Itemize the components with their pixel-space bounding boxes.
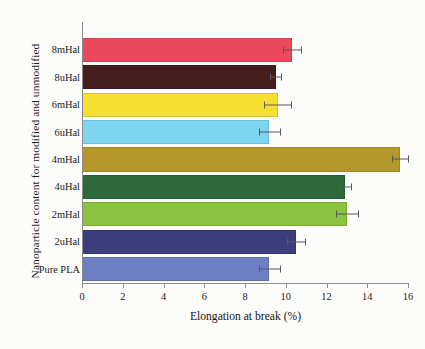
error-bar-cap <box>336 211 337 218</box>
x-tick-label: 10 <box>273 291 299 302</box>
y-tick-label-4mhal: 4mHal <box>22 154 80 165</box>
error-bar <box>259 269 279 270</box>
error-bar-cap <box>287 238 288 245</box>
bar-row <box>82 173 408 200</box>
x-tick-label: 14 <box>354 291 380 302</box>
error-bar-cap <box>280 129 281 136</box>
error-bar <box>264 104 290 105</box>
y-tick-label-pure-pla: Pure PLA <box>22 264 80 275</box>
bar-6mhal <box>82 93 278 117</box>
y-axis-tick-labels: 8mHal8uHal6mHal6uHal4mHal4uHal2mHal2uHal… <box>22 36 80 283</box>
y-tick-label-2mhal: 2mHal <box>22 209 80 220</box>
x-tick-label: 8 <box>232 291 258 302</box>
y-tick-label-4uhal: 4uHal <box>22 181 80 192</box>
x-tick <box>286 283 287 288</box>
error-bar <box>283 49 301 50</box>
x-tick <box>204 283 205 288</box>
error-bar-cap <box>358 211 359 218</box>
y-tick-label-8mhal: 8mHal <box>22 44 80 55</box>
x-tick <box>367 283 368 288</box>
error-bar-cap <box>259 266 260 273</box>
bars-layer <box>82 36 408 283</box>
error-bar-cap <box>392 156 393 163</box>
x-tick-label: 0 <box>69 291 95 302</box>
x-tick <box>123 283 124 288</box>
y-tick-label-8uhal: 8uHal <box>22 72 80 83</box>
y-tick-label-2uhal: 2uHal <box>22 236 80 247</box>
bar-row <box>82 63 408 90</box>
bar-2uhal <box>82 230 296 254</box>
bar-4mhal <box>82 147 400 171</box>
bar-6uhal <box>82 120 269 144</box>
x-tick <box>82 283 83 288</box>
y-tick-label-6uhal: 6uHal <box>22 127 80 138</box>
error-bar-cap <box>351 183 352 190</box>
elongation-at-break-bar-chart: Nanoparticle content for modified and un… <box>0 0 425 349</box>
error-bar <box>259 132 279 133</box>
bar-row <box>82 201 408 228</box>
error-bar-cap <box>305 238 306 245</box>
error-bar-cap <box>408 156 409 163</box>
x-tick-label: 2 <box>110 291 136 302</box>
y-axis-line <box>82 22 83 284</box>
x-tick <box>245 283 246 288</box>
bar-pure-pla <box>82 257 269 281</box>
error-bar-cap <box>280 266 281 273</box>
bar-row <box>82 146 408 173</box>
error-bar-cap <box>264 101 265 108</box>
x-tick-label: 6 <box>191 291 217 302</box>
error-bar-cap <box>291 101 292 108</box>
error-bar-cap <box>259 129 260 136</box>
bar-row <box>82 228 408 255</box>
bar-2mhal <box>82 202 347 226</box>
error-bar <box>336 214 358 215</box>
x-tick <box>408 283 409 288</box>
error-bar <box>392 159 408 160</box>
bar-row <box>82 256 408 283</box>
bar-row <box>82 118 408 145</box>
bar-8mhal <box>82 38 292 62</box>
error-bar-cap <box>301 46 302 53</box>
x-tick-label: 12 <box>314 291 340 302</box>
bar-4uhal <box>82 175 345 199</box>
x-tick <box>327 283 328 288</box>
y-tick-label-6mhal: 6mHal <box>22 99 80 110</box>
bar-row <box>82 36 408 63</box>
x-axis-title: Elongation at break (%) <box>82 310 409 323</box>
error-bar <box>339 186 351 187</box>
bar-row <box>82 91 408 118</box>
error-bar-cap <box>283 46 284 53</box>
error-bar-cap <box>339 183 340 190</box>
error-bar-cap <box>281 74 282 81</box>
bar-8uhal <box>82 65 276 89</box>
x-tick-label: 16 <box>395 291 421 302</box>
x-tick-label: 4 <box>151 291 177 302</box>
error-bar <box>287 241 305 242</box>
error-bar-cap <box>270 74 271 81</box>
x-tick <box>164 283 165 288</box>
plot-area <box>82 22 408 283</box>
error-bar <box>270 77 280 78</box>
